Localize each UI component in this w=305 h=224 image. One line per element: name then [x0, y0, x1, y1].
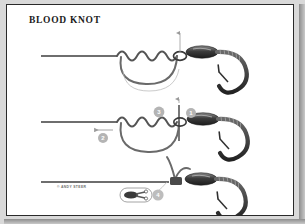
tag-end-bottom	[167, 157, 175, 179]
finished-knot-bottom	[170, 177, 182, 185]
knot-diagram: 1 2 3	[7, 5, 294, 216]
hook-point-bottom	[217, 192, 218, 199]
fishing-hook-icon-middle	[218, 119, 248, 160]
step-top-group	[41, 33, 247, 93]
badge-two: 2	[98, 133, 108, 143]
hook-point-top	[218, 65, 219, 72]
step-middle-group: 1 2 3	[41, 99, 248, 160]
line-coil-icon-middle	[117, 118, 177, 127]
hook-barb-middle	[220, 139, 229, 149]
step-bottom-group: 4	[41, 157, 246, 216]
hook-barb-bottom	[218, 199, 227, 209]
line-coil-icon-top	[117, 52, 177, 61]
frame-shadow-right	[299, 4, 305, 224]
badge-three: 3	[154, 107, 165, 118]
fishing-hook-icon-top	[217, 52, 247, 93]
fishing-hook-icon-bottom	[216, 179, 246, 216]
diagram-plate: BLOOD KNOT © ANDY STEER	[6, 4, 294, 216]
bait-sleeve-icon-top	[186, 46, 218, 58]
hook-barb-top	[219, 72, 228, 82]
trim-tool-inset	[120, 188, 152, 202]
hook-point-middle	[219, 132, 220, 139]
bait-sleeve-icon-bottom	[185, 173, 217, 185]
scissors-icon	[124, 191, 138, 198]
badge-four: 4	[152, 189, 163, 200]
badge-one: 1	[186, 108, 196, 118]
frame-shadow-bottom	[4, 219, 305, 224]
